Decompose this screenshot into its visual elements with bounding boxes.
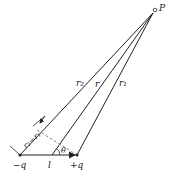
label-positive-charge: +q xyxy=(70,160,84,170)
dimension-tick-lower xyxy=(10,146,20,155)
line-r xyxy=(52,13,153,155)
label-path-difference: r₂−r₁ xyxy=(21,130,42,151)
label-separation: l xyxy=(48,160,51,170)
positive-charge-dot xyxy=(75,153,78,156)
label-r2: r₂ xyxy=(76,78,84,88)
dimension-tick-upper xyxy=(33,116,45,126)
negative-charge-dot xyxy=(18,153,21,156)
label-point-p: P xyxy=(158,3,166,13)
label-r1: r₁ xyxy=(119,78,127,88)
perpendicular-dashed-line xyxy=(37,130,77,155)
dipole-diagram: P r₂ r r₁ r₂−r₁ θ l −q +q xyxy=(0,0,176,179)
label-r: r xyxy=(95,79,100,89)
theta-arc xyxy=(57,149,61,156)
point-p-marker xyxy=(153,8,157,12)
line-r1 xyxy=(77,13,153,155)
label-theta: θ xyxy=(61,146,66,155)
label-negative-charge: −q xyxy=(13,160,27,170)
